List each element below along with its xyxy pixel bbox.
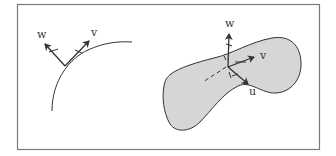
- label-v: v: [259, 49, 267, 62]
- label-w: w: [37, 28, 47, 41]
- label-w: w: [225, 17, 235, 30]
- label-v: v: [90, 26, 98, 39]
- diagram: w v w v u: [0, 0, 336, 156]
- label-u: u: [249, 85, 256, 98]
